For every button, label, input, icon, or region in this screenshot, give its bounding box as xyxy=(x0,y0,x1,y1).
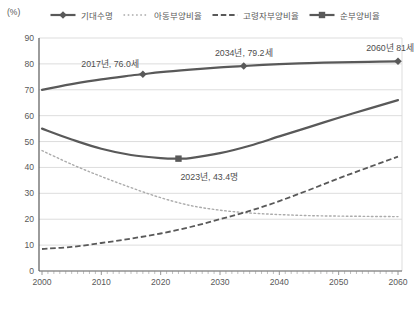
y-tick-label: 30 xyxy=(24,188,34,198)
series-line-net-dependency xyxy=(42,100,398,159)
data-point-annotation: 2017년, 76.0세 xyxy=(81,59,139,69)
x-tick-label: 2020 xyxy=(151,277,170,287)
y-tick-label: 90 xyxy=(24,33,34,43)
x-tick-label: 2040 xyxy=(270,277,289,287)
y-tick-label: 50 xyxy=(24,137,34,147)
y-tick-label: 10 xyxy=(24,240,34,250)
plot-area: 2000201020202030204020502060010203040506… xyxy=(0,0,419,311)
diamond-marker-icon xyxy=(240,62,248,70)
series-line-elderly-dependency xyxy=(42,157,398,249)
x-tick-label: 2050 xyxy=(329,277,348,287)
dependency-ratio-chart: (%) 기대수명 아동부양비율 고령자부양비율 순부양비율 2000201020… xyxy=(0,0,419,311)
data-point-annotation: 2060년 81세 xyxy=(366,43,414,53)
y-tick-label: 20 xyxy=(24,214,34,224)
y-tick-label: 70 xyxy=(24,85,34,95)
y-tick-label: 80 xyxy=(24,59,34,69)
series-line-child-dependency xyxy=(42,151,398,217)
x-tick-label: 2060 xyxy=(388,277,407,287)
x-tick-label: 2030 xyxy=(210,277,229,287)
data-point-annotation: 2034년, 79.2세 xyxy=(215,48,273,58)
y-tick-label: 40 xyxy=(24,162,34,172)
data-point-annotation: 2023년, 43.4명 xyxy=(180,172,238,182)
diamond-marker-icon xyxy=(139,70,147,78)
y-tick-label: 0 xyxy=(29,266,34,276)
square-marker-icon xyxy=(175,155,181,161)
y-tick-label: 60 xyxy=(24,111,34,121)
x-tick-label: 2000 xyxy=(32,277,51,287)
x-tick-label: 2010 xyxy=(92,277,111,287)
